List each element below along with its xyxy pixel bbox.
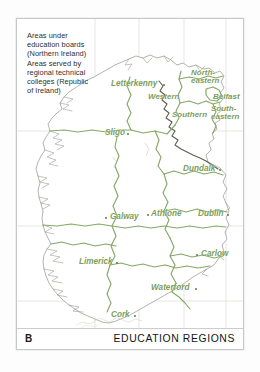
boundary-waterford-south — [172, 292, 190, 309]
map-label-western: Western — [148, 93, 179, 102]
legend-line-6: colleges (Republic — [27, 77, 113, 86]
figure-frame: Areas under education boards (Northern I… — [16, 18, 244, 350]
map-label-letterkenny: Letterkenny — [111, 80, 157, 89]
map-label-cork: Cork — [111, 311, 130, 320]
map-label-limerick: Limerick — [79, 258, 113, 267]
figure-caption-bar: B EDUCATION REGIONS — [17, 328, 243, 349]
map-label-sligo: Sligo — [105, 129, 125, 138]
map-label-carlow: Carlow — [201, 250, 228, 259]
legend-line-1: Areas under — [27, 31, 113, 40]
map-label-south-eastern: South- eastern — [211, 105, 239, 122]
map-label-galway: Galway — [110, 213, 139, 222]
legend-line-2: education boards — [27, 40, 113, 49]
map-label-athlone: Athlone — [151, 210, 181, 219]
figure-page: Areas under education boards (Northern I… — [0, 0, 260, 372]
legend-line-7: of Ireland) — [27, 86, 113, 95]
figure-title: EDUCATION REGIONS — [114, 333, 235, 344]
legend-text-block: Areas under education boards (Northern I… — [27, 31, 113, 95]
map-label-north-eastern: North- eastern — [191, 69, 219, 86]
scan-smudge — [73, 315, 143, 329]
legend-line-4: Areas served by — [27, 59, 113, 68]
map-label-dundalk: Dundalk — [183, 165, 215, 174]
panel-letter: B — [25, 333, 32, 344]
map-label-waterford: Waterford — [151, 284, 190, 293]
map-label-belfast: Belfast — [213, 93, 240, 102]
map-area: Areas under education boards (Northern I… — [17, 19, 243, 329]
legend-line-3: (Northern Ireland) — [27, 49, 113, 58]
map-label-dublin: Dublin — [198, 210, 223, 219]
legend-line-5: regional technical — [27, 68, 113, 77]
map-label-southern: Southern — [172, 111, 207, 120]
